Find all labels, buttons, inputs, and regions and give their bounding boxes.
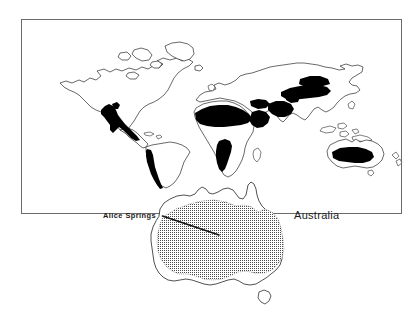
map-vector-layer xyxy=(0,0,419,331)
australia-in-world-map xyxy=(327,139,402,176)
australia-detail-map xyxy=(150,182,290,304)
figure-distribution-map: Alice Springs Australia xyxy=(0,0,419,331)
tasmania-outline xyxy=(258,290,271,304)
label-alice-springs: Alice Springs xyxy=(103,211,156,220)
label-australia: Australia xyxy=(294,209,340,221)
